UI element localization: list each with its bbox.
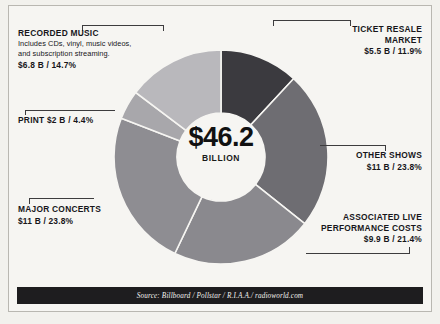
- leader-line-associated-live-tick: [409, 247, 410, 254]
- callout-associated-live-value: $9.9 B / 21.4%: [318, 234, 422, 245]
- callout-associated-live-title-line2: PERFORMANCE COSTS: [318, 223, 422, 234]
- leader-line-recorded-music-end-tick: [163, 25, 164, 31]
- source-footer-bar: Source: Billboard / Pollstar / R.I.A.A./…: [17, 287, 423, 304]
- callout-major-concerts-title: MAJOR CONCERTS: [18, 204, 136, 215]
- callout-major-concerts: MAJOR CONCERTS $11 B / 23.8%: [18, 204, 136, 226]
- leader-line-ticket-resale-start-tick: [273, 20, 274, 26]
- callout-print-value: PRINT $2 B / 4.4%: [18, 115, 140, 126]
- leader-line-recorded-music-horizontal: [82, 25, 164, 26]
- callout-associated-live-title-line1: ASSOCIATED LIVE: [318, 212, 422, 223]
- callout-recorded-music-description-line2: and subscription streaming.: [18, 49, 146, 59]
- callout-recorded-music: RECORDED MUSIC Includes CDs, vinyl, musi…: [18, 28, 146, 71]
- callout-other-shows: OTHER SHOWS $11 B / 23.8%: [330, 150, 422, 172]
- callout-other-shows-title: OTHER SHOWS: [330, 150, 422, 161]
- callout-recorded-music-title: RECORDED MUSIC: [18, 28, 146, 39]
- callout-ticket-resale-title: TICKET RESALE MARKET: [318, 24, 422, 45]
- callout-recorded-music-value: $6.8 B / 14.7%: [18, 60, 146, 71]
- leader-line-print-horizontal: [25, 110, 115, 111]
- leader-line-ticket-resale-horizontal: [273, 20, 351, 21]
- leader-line-associated-live-horizontal: [306, 253, 410, 254]
- callout-associated-live-performance-costs: ASSOCIATED LIVE PERFORMANCE COSTS $9.9 B…: [318, 212, 422, 245]
- callout-other-shows-value: $11 B / 23.8%: [330, 162, 422, 173]
- callout-major-concerts-value: $11 B / 23.8%: [18, 216, 136, 227]
- donut-slice-group: [114, 50, 328, 264]
- leader-line-major-concerts-horizontal: [29, 198, 94, 199]
- infographic-page: $46.2 BILLION RECORDED MUSIC Includes CD…: [0, 0, 440, 324]
- callout-ticket-resale-market: TICKET RESALE MARKET $5.5 B / 11.9%: [318, 24, 422, 57]
- callout-print: PRINT $2 B / 4.4%: [18, 115, 140, 126]
- source-attribution-text: Source: Billboard / Pollstar / R.I.A.A./…: [137, 292, 303, 300]
- callout-ticket-resale-value: $5.5 B / 11.9%: [318, 46, 422, 57]
- leader-line-other-shows-horizontal: [320, 145, 386, 146]
- callout-recorded-music-description-line1: Includes CDs, vinyl, music videos,: [18, 39, 146, 49]
